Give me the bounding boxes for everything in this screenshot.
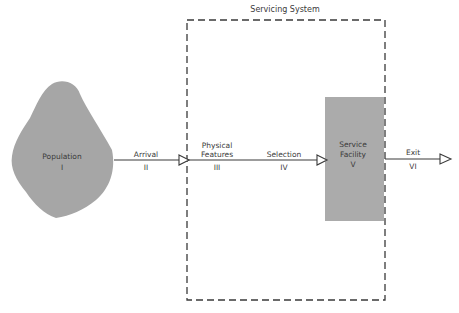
arrowhead-icon — [440, 154, 451, 164]
physical-features-label-2: Features — [201, 150, 233, 159]
servicing-system-title: Servicing System — [250, 5, 319, 14]
selection-numeral: IV — [280, 163, 287, 172]
physical-features-numeral: III — [214, 163, 221, 172]
service-facility-numeral: V — [350, 160, 355, 169]
service-facility-label-1: Service — [339, 140, 367, 149]
service-facility-label-2: Facility — [340, 150, 366, 159]
exit-numeral: VI — [409, 162, 416, 171]
arrival-numeral: II — [144, 163, 148, 172]
population-label: Population — [42, 152, 81, 161]
population-numeral: I — [61, 163, 63, 172]
service-facility-box — [325, 97, 384, 221]
population-blob — [12, 81, 114, 218]
selection-label: Selection — [267, 150, 302, 159]
exit-label: Exit — [406, 148, 420, 157]
physical-features-label-1: Physical — [202, 141, 233, 150]
arrival-label: Arrival — [134, 150, 158, 159]
